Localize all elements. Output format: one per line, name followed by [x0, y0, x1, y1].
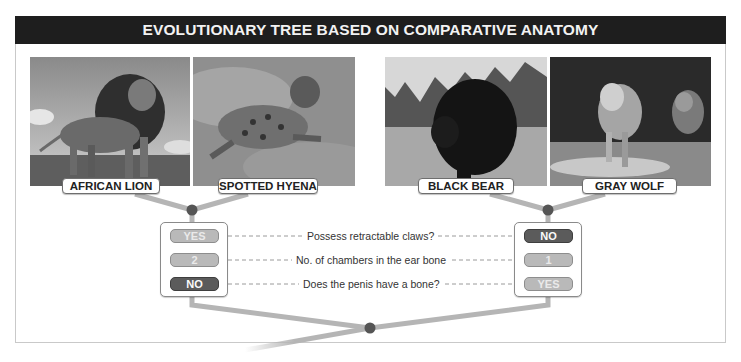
- hyena-photo: [193, 57, 355, 186]
- trait-question-claws: Possess retractable claws?: [303, 230, 438, 242]
- trait-question-ear-bone: No. of chambers in the ear bone: [292, 254, 450, 266]
- label-gray-wolf: GRAY WOLF: [582, 178, 677, 194]
- trait-value-ear-right: 1: [524, 253, 573, 267]
- trait-value-ear-left: 2: [170, 253, 219, 267]
- label-black-bear: BLACK BEAR: [418, 178, 514, 194]
- trait-value-bone-left: NO: [170, 277, 219, 291]
- trait-value-claws-left: YES: [170, 229, 219, 243]
- trait-value-bone-right: YES: [524, 277, 573, 291]
- trait-box-canid-group: NO 1 YES: [514, 222, 582, 297]
- trait-value-claws-right: NO: [524, 229, 573, 243]
- wolf-photo: [550, 57, 711, 186]
- diagram-title: EVOLUTIONARY TREE BASED ON COMPARATIVE A…: [15, 16, 726, 44]
- label-spotted-hyena: SPOTTED HYENA: [218, 178, 318, 194]
- bear-photo: [385, 57, 547, 186]
- trait-box-felid-group: YES 2 NO: [160, 222, 228, 297]
- label-african-lion: AFRICAN LION: [62, 178, 160, 194]
- trait-question-penis-bone: Does the penis have a bone?: [299, 278, 444, 290]
- lion-photo: [30, 57, 190, 186]
